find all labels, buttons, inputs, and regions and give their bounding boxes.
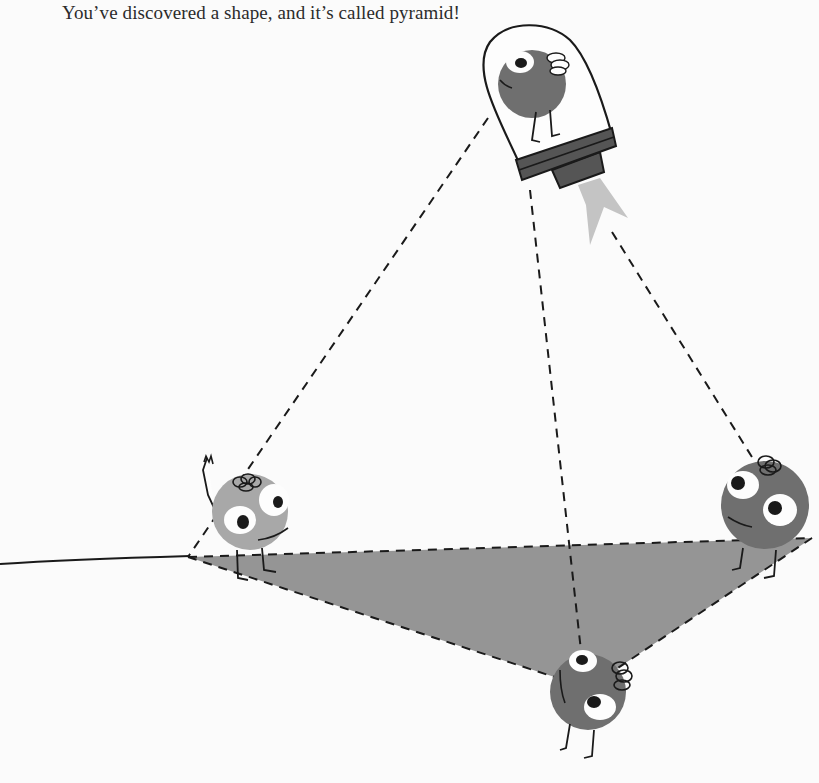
flame-icon xyxy=(578,178,628,245)
pyramid-base xyxy=(188,538,812,688)
rocket-icon xyxy=(483,25,628,245)
pyramid-scene xyxy=(0,0,819,783)
ground-line xyxy=(0,556,190,564)
